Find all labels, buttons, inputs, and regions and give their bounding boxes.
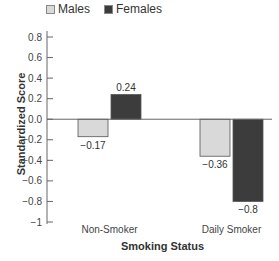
y-tick-label: 0.2: [28, 93, 42, 104]
y-tick-label: −1: [31, 217, 43, 228]
y-tick-label: −0.6: [22, 175, 42, 186]
bar-females: [111, 95, 141, 120]
y-tick-label: 0.4: [28, 73, 42, 84]
bar-females: [233, 119, 263, 201]
y-tick-label: −0.4: [22, 155, 42, 166]
value-label: −0.17: [80, 140, 106, 151]
y-tick-label: 0.0: [28, 114, 42, 125]
y-tick-label: 0.8: [28, 32, 42, 43]
value-label: 0.24: [116, 82, 136, 93]
value-label: −0.8: [238, 204, 258, 215]
bar-males: [78, 119, 108, 136]
value-label: −0.36: [202, 159, 228, 170]
x-category-label: Non-Smoker: [81, 224, 138, 235]
y-tick-label: 0.6: [28, 52, 42, 63]
x-category-label: Daily Smoker: [202, 224, 262, 235]
bar-males: [200, 119, 230, 156]
plot-area: 0.80.60.40.20.0−0.2−0.4−0.6−0.8−1−0.170.…: [0, 0, 279, 261]
y-tick-label: −0.2: [22, 134, 42, 145]
y-tick-label: −0.8: [22, 196, 42, 207]
